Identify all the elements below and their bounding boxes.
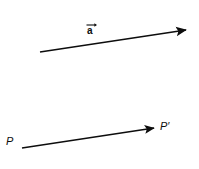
- point-p-label: P: [6, 136, 13, 147]
- prime-mark: ′: [167, 120, 169, 132]
- vector-a-label: a: [86, 22, 102, 38]
- point-p-prime-label: P′: [160, 121, 169, 132]
- figure-canvas: a P P′: [0, 0, 199, 169]
- point-translation-arrow: [22, 128, 154, 148]
- vector-a-arrow: [40, 30, 186, 52]
- vector-a-letter: a: [87, 26, 93, 36]
